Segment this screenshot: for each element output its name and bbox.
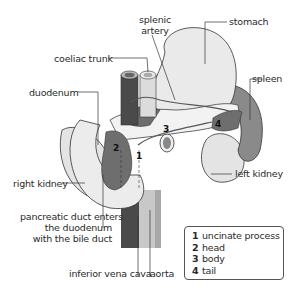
label-pancreatic-duct-line3: with the bile duct: [20, 233, 112, 244]
label-right-kidney: right kidney: [13, 178, 68, 189]
pancreas-anatomy-diagram: 2 1 3 4 splenic artery stomach coeliac t…: [0, 0, 294, 296]
marker-head: 2: [113, 143, 119, 153]
inferior-vena-cava-upper: [121, 75, 138, 125]
label-splenic-artery-line2: artery: [139, 25, 171, 36]
legend-label: tail: [202, 265, 216, 276]
label-splenic-artery-line1: splenic: [139, 14, 171, 25]
legend-label: uncinate process: [202, 230, 280, 241]
legend-label: body: [202, 253, 225, 264]
aorta-upper: [140, 75, 156, 117]
label-left-kidney: left kidney: [235, 168, 283, 179]
legend-label: head: [202, 242, 225, 253]
label-coeliac-trunk: coeliac trunk: [54, 53, 113, 64]
legend-number: 4: [192, 265, 202, 277]
legend-item: 4tail: [192, 265, 283, 277]
marker-uncinate: 1: [136, 151, 142, 161]
legend-number: 1: [192, 230, 202, 242]
label-pancreatic-duct: pancreatic duct enters the duodenum with…: [20, 211, 112, 244]
label-splenic-artery: splenic artery: [139, 14, 171, 36]
legend-box: 1uncinate process 2head 3body 4tail: [184, 226, 284, 280]
pancreas-head-shape: [102, 131, 132, 190]
legend-number: 2: [192, 242, 202, 254]
label-stomach: stomach: [229, 16, 268, 27]
legend-item: 1uncinate process: [192, 230, 283, 242]
legend-item: 3body: [192, 253, 283, 265]
legend-item: 2head: [192, 242, 283, 254]
marker-body: 3: [163, 124, 169, 134]
label-pancreatic-duct-line1: pancreatic duct enters: [20, 211, 112, 222]
label-pancreatic-duct-line2: the duodenum: [20, 222, 112, 233]
label-inferior-vena-cava: inferior vena cava: [69, 268, 151, 279]
label-duodenum: duodenum: [29, 87, 78, 98]
marker-tail: 4: [215, 119, 221, 129]
label-aorta: aorta: [150, 268, 174, 279]
label-spleen: spleen: [252, 73, 282, 84]
legend-number: 3: [192, 253, 202, 265]
